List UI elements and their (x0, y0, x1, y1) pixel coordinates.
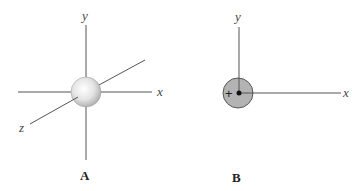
z-axis-label-a: z (18, 120, 24, 135)
panel-b: + y x B (223, 9, 349, 185)
diagram-canvas: y x z A + y x B (0, 0, 362, 191)
panel-label-a: A (80, 168, 90, 183)
center-dot (237, 91, 242, 96)
z-axis-front (30, 97, 78, 124)
y-axis-label-a: y (80, 8, 88, 23)
panel-label-b: B (232, 170, 241, 185)
x-axis-label-a: x (156, 84, 163, 99)
x-axis-label-b: x (342, 85, 349, 100)
y-axis-label-b: y (233, 9, 241, 24)
plus-sign: + (225, 86, 233, 101)
sphere (71, 77, 101, 107)
panel-a: y x z A (18, 8, 163, 183)
